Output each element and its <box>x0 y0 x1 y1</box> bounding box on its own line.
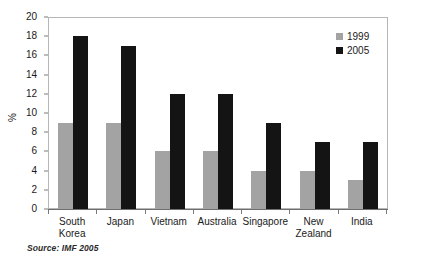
y-tick-label: 18 <box>26 31 37 41</box>
legend-item-2005: 2005 <box>336 44 384 57</box>
x-axis-label-line: India <box>338 216 386 228</box>
x-tick-mark <box>289 210 290 214</box>
y-tick-label: 4 <box>31 166 37 176</box>
legend-swatch-gray-icon <box>336 33 343 40</box>
x-tick-mark <box>338 210 339 214</box>
x-axis-label-line: Australia <box>193 216 241 228</box>
y-tick-label: 14 <box>26 70 37 80</box>
x-axis-label-line: South <box>48 216 96 228</box>
bar-1999-new-zealand <box>300 171 315 209</box>
legend-item-1999: 1999 <box>336 30 384 43</box>
bar-2005-vietnam <box>170 94 185 209</box>
x-tick-mark <box>48 210 49 214</box>
bar-1999-south-korea <box>58 123 73 209</box>
bar-2005-singapore <box>266 123 281 209</box>
x-axis-label-line: New <box>289 216 337 228</box>
x-axis-label-vietnam: Vietnam <box>145 216 193 228</box>
bar-2005-south-korea <box>73 36 88 209</box>
bar-1999-australia <box>203 151 218 209</box>
x-axis-label-south-korea: SouthKorea <box>48 216 96 240</box>
y-tick-label: 0 <box>31 204 37 214</box>
x-axis-line <box>48 209 388 210</box>
legend-label-2005: 2005 <box>347 46 369 56</box>
x-tick-mark <box>386 210 387 214</box>
x-tick-mark <box>193 210 194 214</box>
x-axis-label-line: Singapore <box>241 216 289 228</box>
x-tick-mark <box>96 210 97 214</box>
y-tick-label: 2 <box>31 185 37 195</box>
chart-legend: 1999 2005 <box>336 30 384 58</box>
bar-1999-singapore <box>251 171 266 209</box>
bar-1999-india <box>348 180 363 209</box>
x-axis-label-line: Zealand <box>289 228 337 240</box>
bar-2005-japan <box>121 46 136 209</box>
x-tick-mark <box>241 210 242 214</box>
bar-2005-australia <box>218 94 233 209</box>
y-tick-label: 10 <box>26 108 37 118</box>
source-note: Source: IMF 2005 <box>27 243 99 253</box>
y-tick-label: 6 <box>31 146 37 156</box>
legend-label-1999: 1999 <box>347 32 369 42</box>
x-axis-label-line: Japan <box>96 216 144 228</box>
bar-1999-japan <box>106 123 121 209</box>
x-axis-label-new-zealand: NewZealand <box>289 216 337 240</box>
bar-2005-new-zealand <box>315 142 330 209</box>
y-tick-label: 20 <box>26 12 37 22</box>
y-tick-label: 12 <box>26 89 37 99</box>
legend-swatch-black-icon <box>336 47 343 54</box>
y-tick-label: 8 <box>31 127 37 137</box>
x-axis-label-line: Korea <box>48 228 96 240</box>
bar-2005-india <box>363 142 378 209</box>
x-axis-label-india: India <box>338 216 386 228</box>
x-axis-label-line: Vietnam <box>145 216 193 228</box>
x-axis-label-japan: Japan <box>96 216 144 228</box>
bar-chart-figure: % 02468101214161820 SouthKoreaJapanVietn… <box>0 0 425 267</box>
x-tick-mark <box>145 210 146 214</box>
y-tick-label: 16 <box>26 50 37 60</box>
x-axis-category-labels: SouthKoreaJapanVietnamAustraliaSingapore… <box>48 216 388 250</box>
x-axis-label-australia: Australia <box>193 216 241 228</box>
x-axis-label-singapore: Singapore <box>241 216 289 228</box>
y-axis-tick-labels: 02468101214161820 <box>0 17 44 209</box>
bar-1999-vietnam <box>155 151 170 209</box>
